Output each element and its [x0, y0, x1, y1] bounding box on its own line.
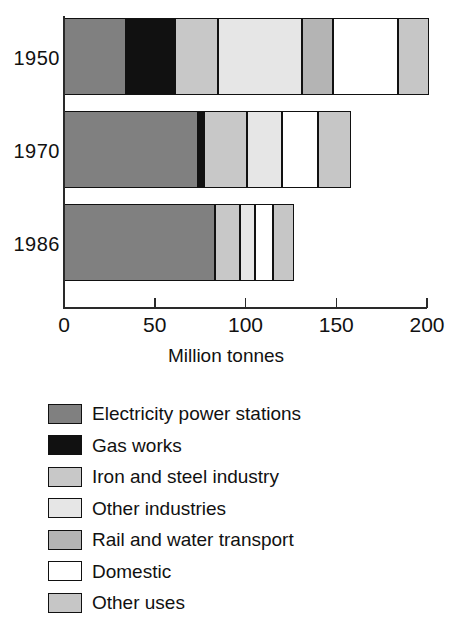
bar-segment	[398, 18, 429, 95]
legend-swatch	[48, 593, 82, 613]
x-axis-tick	[154, 298, 156, 308]
legend-swatch	[48, 435, 82, 455]
legend-label: Domestic	[92, 562, 171, 581]
legend-swatch	[48, 530, 82, 550]
x-axis-title: Million tonnes	[0, 345, 452, 367]
y-category-label-1950: 1950	[6, 47, 60, 70]
legend-label: Rail and water transport	[92, 530, 294, 549]
bar-1986	[64, 204, 294, 281]
x-axis-tick-label: 0	[58, 313, 70, 337]
bar-segment	[64, 204, 215, 281]
legend-label: Electricity power stations	[92, 404, 301, 423]
y-category-label-1986: 1986	[6, 233, 60, 256]
legend-item: Domestic	[48, 556, 448, 588]
bar-segment	[302, 18, 333, 95]
legend-swatch	[48, 404, 82, 424]
legend-label: Other industries	[92, 499, 226, 518]
legend-label: Gas works	[92, 436, 182, 455]
bar-segment	[333, 18, 398, 95]
bar-segment	[175, 18, 219, 95]
x-axis-tick	[426, 298, 428, 308]
x-axis-tick-label: 200	[409, 313, 444, 337]
legend-item: Other uses	[48, 587, 448, 619]
legend-swatch	[48, 561, 82, 581]
x-axis-tick-label: 50	[143, 313, 166, 337]
legend-label: Iron and steel industry	[92, 467, 279, 486]
bar-segment	[282, 111, 318, 188]
bar-segment	[215, 204, 240, 281]
bar-segment	[218, 18, 301, 95]
x-axis-tick	[336, 298, 338, 308]
bar-segment	[64, 18, 126, 95]
bar-segment	[240, 204, 255, 281]
legend-swatch	[48, 467, 82, 487]
bar-segment	[204, 111, 248, 188]
bar-1950	[64, 18, 429, 95]
legend: Electricity power stationsGas worksIron …	[48, 398, 448, 619]
y-axis-line	[63, 16, 65, 308]
legend-swatch	[48, 498, 82, 518]
bar-segment	[247, 111, 281, 188]
y-category-label-1970: 1970	[6, 140, 60, 163]
bar-segment	[126, 18, 175, 95]
bar-1970	[64, 111, 351, 188]
legend-item: Gas works	[48, 430, 448, 462]
legend-item: Rail and water transport	[48, 524, 448, 556]
x-axis-tick-label: 150	[319, 313, 354, 337]
bar-segment	[64, 111, 198, 188]
legend-item: Iron and steel industry	[48, 461, 448, 493]
x-axis-tick-label: 100	[228, 313, 263, 337]
bar-segment	[255, 204, 273, 281]
plot-area: 1950 1970 1986 050100150200 Million tonn…	[0, 0, 452, 310]
legend-item: Other industries	[48, 493, 448, 525]
x-axis-tick	[245, 298, 247, 308]
legend-item: Electricity power stations	[48, 398, 448, 430]
x-axis-tick	[63, 298, 65, 308]
stacked-bar-chart: 1950 1970 1986 050100150200 Million tonn…	[0, 0, 452, 630]
bar-segment	[273, 204, 295, 281]
legend-label: Other uses	[92, 593, 185, 612]
bar-segment	[318, 111, 351, 188]
